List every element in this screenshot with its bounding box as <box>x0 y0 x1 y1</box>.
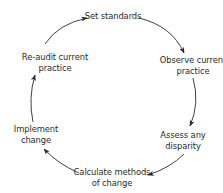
node-label-line: of change <box>74 178 151 189</box>
node-re-audit-current-practice: Re-audit current practice <box>22 52 88 73</box>
node-implement-change: Implement change <box>14 124 58 145</box>
node-set-standards: Set standards <box>85 11 142 22</box>
node-label-line: Observe current <box>160 55 223 66</box>
cycle-arrows <box>0 0 223 193</box>
node-label-line: change <box>14 135 58 146</box>
node-assess-any-disparity: Assess any disparity <box>160 130 205 151</box>
node-label-line: disparity <box>160 141 205 152</box>
node-label-line: Re-audit current <box>22 52 88 63</box>
arrow-reaudit-to-set-standards <box>45 18 87 44</box>
node-label-line: practice <box>160 66 223 77</box>
node-label-line: Implement <box>14 124 58 135</box>
node-observe-current-practice: Observe current practice <box>160 55 223 76</box>
node-label-line: Assess any <box>160 130 205 141</box>
arrow-set-standards-to-observe <box>139 18 184 53</box>
node-calculate-methods-of-change: Calculate methods of change <box>74 167 151 188</box>
arrow-assess-to-calculate <box>148 154 184 175</box>
arrow-implement-to-reaudit <box>31 75 35 122</box>
node-label-line: Calculate methods <box>74 167 151 178</box>
node-label-line: Set standards <box>85 11 142 22</box>
node-label-line: practice <box>22 63 88 74</box>
arrow-observe-to-assess <box>190 78 196 126</box>
audit-cycle-diagram: Set standards Observe current practice A… <box>0 0 223 193</box>
